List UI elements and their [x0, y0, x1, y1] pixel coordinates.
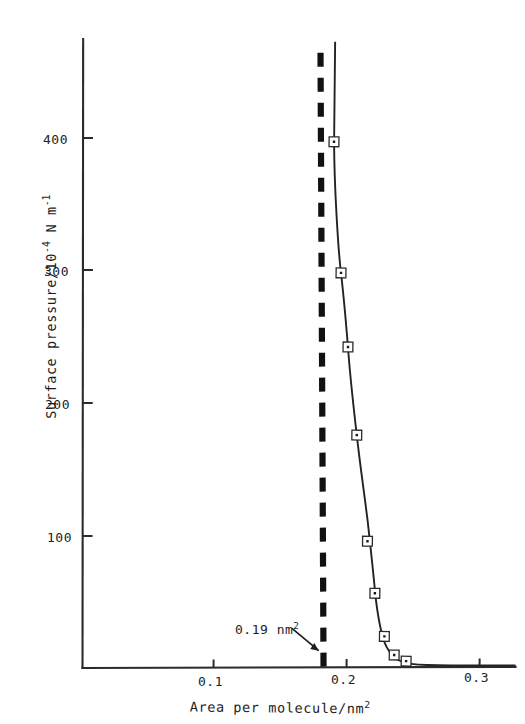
- chart-figure: 400 300 200 100 0.1 0.2 0.3 Surface pres…: [0, 0, 525, 724]
- collapse-area-annotation-label: 0.19 nm2: [235, 620, 299, 637]
- y-tick-label-400: 400: [43, 132, 68, 147]
- x-tick-label-0.3: 0.3: [464, 670, 489, 685]
- x-axis-line: [83, 662, 516, 673]
- x-axis-title-exponent: 2: [364, 699, 370, 710]
- y-axis-title-text-a: Surface pressure/10: [43, 253, 59, 419]
- collapse-area-annotation-exponent: 2: [293, 620, 299, 631]
- isotherm-curve: [328, 42, 523, 666]
- x-axis-ticks: [214, 655, 480, 671]
- y-axis-title: Surface pressure/10-4 N m-1: [41, 199, 59, 419]
- y-axis-title-exponent-a: -4: [41, 241, 52, 253]
- collapse-area-annotation-text: 0.19 nm: [235, 622, 293, 637]
- x-tick-label-0.2: 0.2: [331, 672, 356, 687]
- y-tick-label-100: 100: [47, 530, 72, 545]
- plot-canvas: [0, 0, 525, 724]
- y-axis-line: [76, 39, 90, 668]
- y-axis-title-exponent-b: -1: [41, 195, 52, 207]
- collapse-area-dashed-line: [314, 53, 331, 668]
- y-axis-title-text-b: N m: [43, 206, 59, 241]
- x-axis-title: Area per molecule/nm2: [150, 697, 410, 717]
- x-tick-label-0.1: 0.1: [198, 674, 223, 689]
- y-axis-ticks: [79, 138, 97, 536]
- x-axis-title-text: Area per molecule/nm: [190, 699, 365, 717]
